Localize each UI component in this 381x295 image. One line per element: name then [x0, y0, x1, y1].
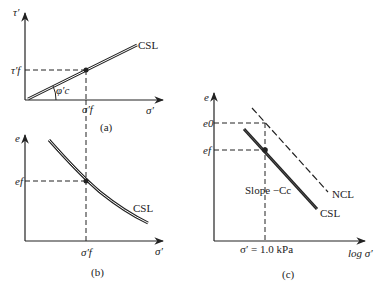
panel-a-failure-point [84, 68, 89, 73]
panel-a-x-tick: σ′f [82, 104, 93, 115]
panel-b [25, 135, 163, 241]
panel-b-y-axis-label: e [15, 133, 20, 144]
panel-b-failure-point [84, 179, 89, 184]
panel-c-caption: (c) [282, 269, 294, 280]
panel-b-x-tick: σ′f [81, 247, 92, 258]
panel-c-failure-point [262, 147, 268, 153]
panel-b-y-tick: ef [15, 176, 23, 187]
panel-a-x-axis-label: σ′ [146, 105, 154, 116]
panel-c-x-axis-label: log σ′ [348, 248, 373, 259]
panel-a-y-tick: τ′f [11, 65, 20, 76]
panel-c-ncl-label: NCL [332, 189, 354, 200]
panel-c-y-axis-label: e [204, 92, 209, 103]
diagram-canvas [0, 0, 381, 295]
panel-a-caption: (a) [100, 122, 112, 133]
panel-c-e0-tick: e0 [203, 118, 213, 129]
panel-a-angle-label: φ′c [56, 85, 69, 96]
panel-b-caption: (b) [91, 267, 104, 278]
panel-b-csl-label: CSL [133, 203, 153, 214]
panel-a [25, 13, 163, 100]
panel-c-csl-label: CSL [320, 208, 340, 219]
panel-a-y-axis-label: τ′ [13, 7, 19, 18]
panel-a-csl-label: CSL [138, 40, 158, 51]
panel-c-x-tick: σ′ = 1.0 kPa [240, 244, 293, 255]
panel-c-ef-tick: ef [203, 145, 211, 156]
panel-c-slope-label: Slope −Cc [245, 185, 291, 196]
panel-c [214, 93, 365, 241]
panel-b-x-axis-label: σ′ [155, 246, 163, 257]
